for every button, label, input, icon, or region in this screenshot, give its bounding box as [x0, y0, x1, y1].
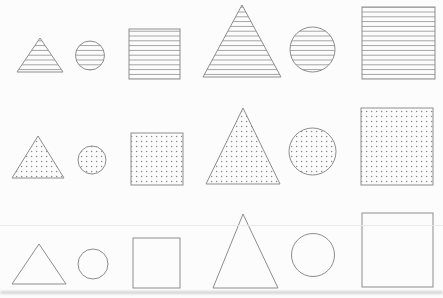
- dotted-small-square: [131, 133, 183, 185]
- plain-small-circle: [78, 249, 108, 279]
- dotted-large-triangle: [206, 108, 280, 184]
- striped-small-triangle: [17, 38, 63, 72]
- plain-small-triangle: [12, 244, 66, 284]
- dotted-small-triangle: [12, 136, 64, 178]
- striped-small-square: [129, 29, 180, 79]
- dotted-large-square: [361, 108, 433, 185]
- striped-small-circle: [76, 41, 105, 70]
- striped-large-triangle: [203, 5, 281, 77]
- scanned-shape-worksheet: [0, 0, 443, 298]
- striped-large-square: [362, 7, 435, 79]
- dotted-small-circle: [78, 146, 106, 174]
- striped-large-circle: [290, 27, 335, 72]
- scan-artifact-line: [0, 225, 443, 226]
- plain-large-circle: [292, 234, 335, 277]
- dotted-large-circle: [289, 128, 336, 175]
- shape-layer: [12, 5, 435, 288]
- shape-grid-svg: [0, 0, 443, 298]
- plain-small-square: [133, 238, 180, 288]
- page-edge-shadow: [0, 291, 443, 294]
